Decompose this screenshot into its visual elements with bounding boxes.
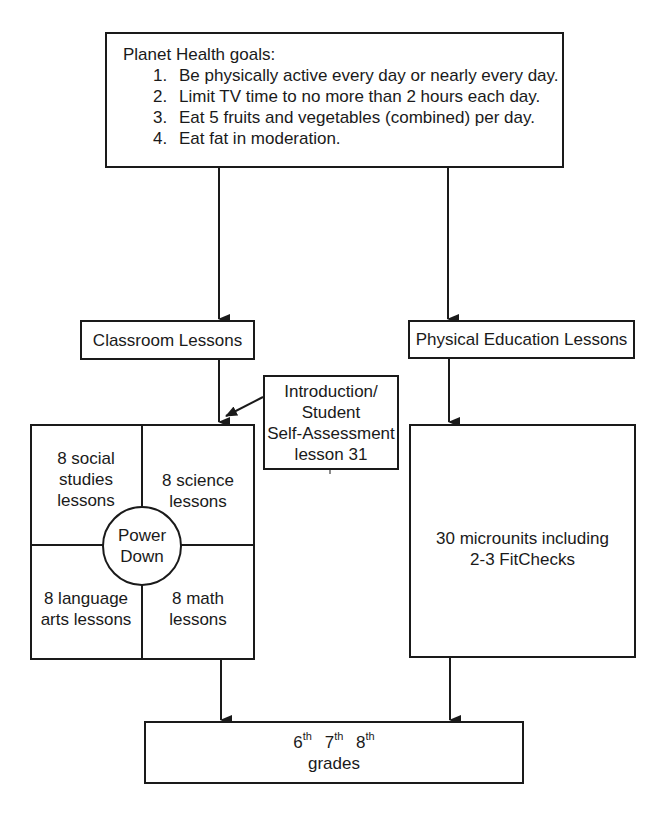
quadrant-line: studies	[59, 469, 113, 490]
social-studies-quadrant: 8 social studies lessons	[30, 448, 142, 511]
grades-label: grades	[308, 753, 360, 774]
power-down-line: Power	[118, 525, 166, 546]
grade-number: 8	[356, 733, 365, 752]
goals-box: Planet Health goals: 1.Be physically act…	[105, 32, 564, 168]
grades-box: 6th 7th 8th grades	[144, 721, 524, 784]
pe-content-line: 30 microunits including	[436, 528, 609, 549]
quadrant-line: 8 social	[57, 448, 115, 469]
grade-suffix: th	[334, 730, 343, 742]
classroom-lessons-box: Classroom Lessons	[80, 320, 255, 360]
quadrant-line: arts lessons	[41, 609, 132, 630]
classroom-lessons-label: Classroom Lessons	[93, 330, 242, 351]
goals-title: Planet Health goals:	[123, 44, 562, 65]
goal-text: Eat 5 fruits and vegetables (combined) p…	[179, 108, 535, 127]
grade-number: 7	[325, 733, 334, 752]
math-quadrant: 8 math lessons	[142, 588, 254, 630]
quadrant-line: lessons	[57, 490, 115, 511]
goal-number: 4.	[153, 128, 167, 149]
grade-number: 6	[293, 733, 302, 752]
quadrant-line: lessons	[169, 491, 227, 512]
language-arts-quadrant: 8 language arts lessons	[30, 588, 142, 630]
grades-row: 6th 7th 8th	[289, 732, 378, 753]
goal-number: 3.	[153, 107, 167, 128]
quadrant-line: 8 math	[172, 588, 224, 609]
goal-item: 1.Be physically active every day or near…	[123, 65, 562, 86]
pe-lessons-label: Physical Education Lessons	[416, 329, 628, 350]
power-down-line: Down	[120, 546, 163, 567]
grade-6: 6th	[293, 733, 312, 752]
intro-self-assessment-box: Introduction/ Student Self-Assessment le…	[263, 375, 399, 470]
intro-line: lesson 31	[295, 444, 368, 465]
goal-number: 1.	[153, 65, 167, 86]
quadrant-line: 8 science	[162, 470, 234, 491]
grade-8: 8th	[356, 733, 375, 752]
goal-text: Limit TV time to no more than 2 hours ea…	[179, 87, 540, 106]
intro-line: Student	[302, 402, 361, 423]
pe-content-text: 30 microunits including 2-3 FitChecks	[409, 528, 636, 570]
pe-content-line: 2-3 FitChecks	[470, 549, 575, 570]
goals-list: 1.Be physically active every day or near…	[123, 65, 562, 149]
goal-item: 4.Eat fat in moderation.	[123, 128, 562, 149]
quadrant-line: 8 language	[44, 588, 128, 609]
science-quadrant: 8 science lessons	[142, 470, 254, 512]
goal-text: Eat fat in moderation.	[179, 129, 341, 148]
intro-line: Self-Assessment	[267, 423, 395, 444]
arrow-intro-to-grid	[226, 397, 263, 416]
goal-number: 2.	[153, 86, 167, 107]
goal-text: Be physically active every day or nearly…	[179, 66, 559, 85]
goal-item: 3.Eat 5 fruits and vegetables (combined)…	[123, 107, 562, 128]
intro-line: Introduction/	[284, 381, 378, 402]
power-down-circle: Power Down	[102, 506, 182, 586]
pe-lessons-box: Physical Education Lessons	[408, 320, 635, 359]
grade-suffix: th	[366, 730, 375, 742]
grade-7: 7th	[325, 733, 344, 752]
grade-suffix: th	[303, 730, 312, 742]
goal-item: 2.Limit TV time to no more than 2 hours …	[123, 86, 562, 107]
quadrant-line: lessons	[169, 609, 227, 630]
